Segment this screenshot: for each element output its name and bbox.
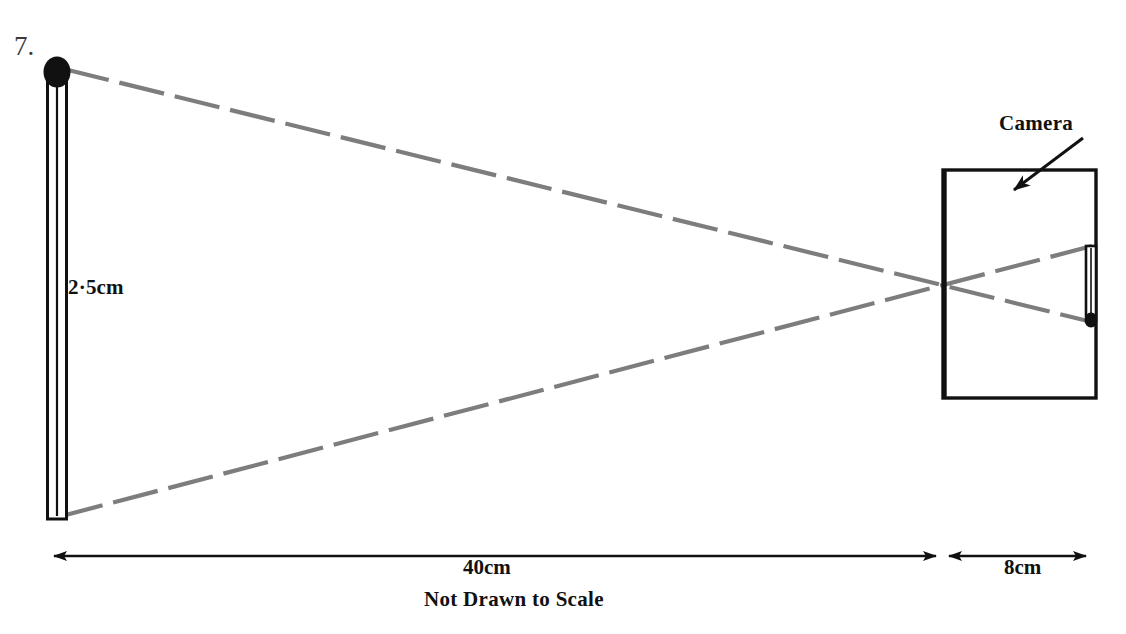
matchstick-inverted-image	[1085, 246, 1098, 328]
image-head	[1085, 313, 1098, 328]
object-height-label: 2·5cm	[68, 277, 124, 298]
camera-label: Camera	[999, 113, 1073, 134]
camera-callout-arrow	[1014, 138, 1083, 190]
camera-depth-label: 8cm	[1004, 557, 1041, 578]
ray-from-match-base	[58, 246, 1092, 517]
matchstick-object	[44, 57, 71, 520]
matchstick-head	[44, 57, 71, 88]
ray-from-match-head	[64, 69, 1092, 322]
diagram-canvas	[0, 0, 1126, 634]
object-distance-label: 40cm	[463, 557, 511, 578]
pinhole-camera-diagram: 7. 2·5cm Camera 40cm 8cm Not Drawn to Sc…	[0, 0, 1126, 634]
question-number: 7.	[14, 33, 34, 60]
light-rays	[58, 69, 1092, 517]
camera-body	[943, 170, 1096, 398]
not-to-scale-note: Not Drawn to Scale	[424, 589, 604, 610]
